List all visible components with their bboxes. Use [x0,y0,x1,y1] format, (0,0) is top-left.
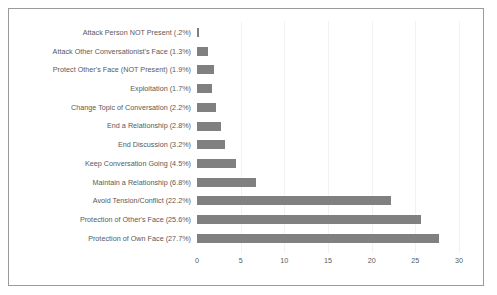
bar [197,234,439,243]
category-label: Protection of Own Face (27.7%) [88,235,191,242]
category-label: End Discussion (3.2%) [118,141,191,148]
category-label: Keep Conversation Going (4.5%) [85,160,191,167]
category-label: Protection of Other's Face (25.6%) [80,216,191,223]
x-tick-label: 25 [411,257,419,264]
gridline [459,21,460,253]
x-axis: 051015202530 [197,257,459,271]
category-label: Exploitation (1.7%) [130,85,191,92]
x-tick-label: 15 [324,257,332,264]
category-label: Change Topic of Conversation (2.2%) [71,104,191,111]
bar [197,122,221,131]
plot-area [197,21,459,253]
x-tick-label: 20 [368,257,376,264]
bar [197,47,208,56]
bar [197,103,216,112]
chart-frame: Attack Person NOT Present (.2%)Attack Ot… [8,8,484,286]
chart-plot-wrapper: Attack Person NOT Present (.2%)Attack Ot… [9,9,483,285]
x-tick-label: 10 [280,257,288,264]
category-label-column: Attack Person NOT Present (.2%)Attack Ot… [9,9,191,285]
x-tick-label: 0 [195,257,199,264]
bar [197,84,212,93]
category-label: Attack Person NOT Present (.2%) [83,29,191,36]
bar [197,215,421,224]
bar [197,159,236,168]
category-label: Avoid Tension/Conflict (22.2%) [93,197,191,204]
bar [197,65,214,74]
bar [197,178,256,187]
x-tick-label: 5 [239,257,243,264]
bar [197,140,225,149]
bar [197,28,199,37]
chart-screenshot: Attack Person NOT Present (.2%)Attack Ot… [0,0,497,295]
category-label: Protect Other's Face (NOT Present) (1.9%… [53,66,191,73]
category-label: End a Relationship (2.8%) [107,122,191,129]
bar [197,196,391,205]
category-label: Attack Other Conversationist's Face (1.3… [53,48,191,55]
x-tick-label: 30 [455,257,463,264]
category-label: Maintain a Relationship (6.8%) [93,179,191,186]
